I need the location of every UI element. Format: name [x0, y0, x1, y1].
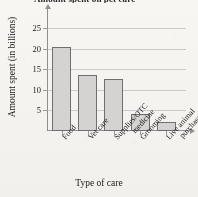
- y-axis-arrow-icon: [45, 4, 51, 9]
- y-tick-label: 25: [33, 23, 42, 33]
- x-axis-title: Type of care: [0, 178, 198, 188]
- y-tick-label: 20: [33, 44, 42, 54]
- y-tick-mark: [43, 69, 48, 70]
- bar: [52, 47, 71, 131]
- chart-title-clipped: Amount spent on pet care: [34, 0, 154, 3]
- bar: [78, 75, 97, 131]
- y-tick-mark: [43, 90, 48, 91]
- bar-chart-figure: Amount spent on pet care Amount spent (i…: [0, 0, 198, 197]
- y-tick-mark: [43, 110, 48, 111]
- chart-title-text: Amount spent on pet care: [34, 0, 154, 3]
- y-tick-label: 15: [33, 64, 42, 74]
- y-axis-title: Amount spent (in billions): [7, 3, 17, 131]
- y-tick-label: 10: [33, 85, 42, 95]
- gridline: [47, 28, 186, 29]
- y-tick-mark: [43, 49, 48, 50]
- plot-area: 510152025: [47, 20, 187, 131]
- y-tick-mark: [43, 28, 48, 29]
- y-tick-label: 5: [37, 105, 41, 115]
